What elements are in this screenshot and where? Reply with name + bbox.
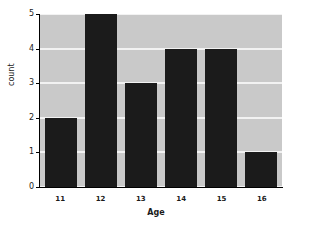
bar-slot xyxy=(81,14,121,187)
bar-slot xyxy=(121,14,161,187)
bar-11[interactable] xyxy=(45,118,76,187)
bar-16[interactable] xyxy=(245,152,276,187)
x-tick-label: 13 xyxy=(126,195,156,203)
y-tick-label: 5 xyxy=(14,10,34,18)
x-axis-label: Age xyxy=(0,208,312,217)
bar-12[interactable] xyxy=(85,14,116,187)
x-tick-label: 11 xyxy=(45,195,75,203)
y-axis-label: count xyxy=(7,63,16,86)
plot-area xyxy=(40,14,282,187)
bar-slot xyxy=(161,14,201,187)
bar-14[interactable] xyxy=(165,49,196,187)
bar-15[interactable] xyxy=(205,49,236,187)
bar-slot xyxy=(201,14,241,187)
x-tick-label: 14 xyxy=(166,195,196,203)
y-tick-label: 1 xyxy=(14,148,34,156)
y-tick-label: 0 xyxy=(14,183,34,191)
bars-group xyxy=(40,14,282,187)
x-tick-label: 12 xyxy=(86,195,116,203)
x-axis-line xyxy=(39,187,283,188)
y-axis-line xyxy=(39,14,40,188)
y-tick-label: 3 xyxy=(14,79,34,87)
y-tick-mark xyxy=(36,152,39,153)
bar-13[interactable] xyxy=(125,83,156,187)
bar-chart-figure: 543210 111213141516 count Age xyxy=(0,0,312,230)
y-tick-label: 4 xyxy=(14,45,34,53)
bar-slot xyxy=(241,14,281,187)
x-tick-label: 15 xyxy=(207,195,237,203)
y-tick-mark xyxy=(36,118,39,119)
y-tick-mark xyxy=(36,187,39,188)
x-tick-label: 16 xyxy=(247,195,277,203)
y-tick-mark xyxy=(36,83,39,84)
y-tick-mark xyxy=(36,49,39,50)
bar-slot xyxy=(41,14,81,187)
y-tick-mark xyxy=(36,14,39,15)
y-tick-label: 2 xyxy=(14,114,34,122)
